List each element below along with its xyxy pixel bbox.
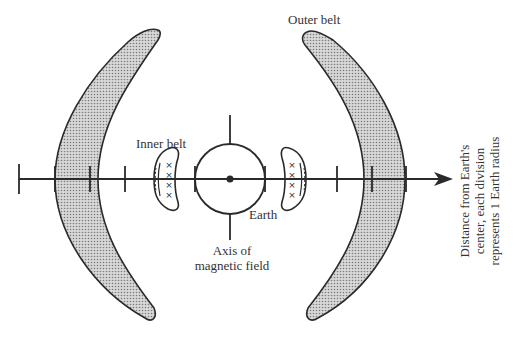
distance-label-line3: represents 1 Earth radius — [487, 101, 502, 301]
distance-label-line1: Distance from Earth's — [457, 101, 472, 301]
outer-belt-label: Outer belt — [288, 12, 340, 27]
svg-text:×: × — [165, 180, 173, 190]
svg-text:×: × — [288, 190, 296, 200]
magnetic-axis-label: Axis of magnetic field — [190, 243, 274, 273]
inner-belt-label: Inner belt — [136, 136, 186, 151]
svg-text:×: × — [288, 160, 296, 170]
svg-text:×: × — [288, 180, 296, 190]
magnetic-axis-label-line2: magnetic field — [190, 258, 274, 273]
earth-label: Earth — [249, 207, 277, 222]
outer-belt-left — [55, 29, 160, 320]
svg-text:×: × — [165, 160, 173, 170]
distance-axis-label: Distance from Earth's center, each divis… — [457, 101, 513, 301]
distance-label-line2: center, each division — [472, 101, 487, 301]
magnetic-axis-label-line1: Axis of — [190, 243, 274, 258]
radiation-belts-diagram: × × × × × × × × — [0, 0, 518, 350]
svg-text:×: × — [165, 170, 173, 180]
svg-text:×: × — [288, 170, 296, 180]
outer-belt-right — [303, 31, 405, 320]
svg-text:×: × — [165, 190, 173, 200]
